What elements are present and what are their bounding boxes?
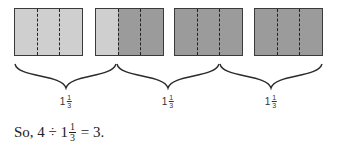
conclusion-prefix: So, 4 ÷ 1 [14, 124, 68, 141]
fraction: 1 3 [168, 94, 174, 109]
numerator: 1 [271, 94, 277, 102]
grouping-braces [0, 0, 337, 100]
conclusion-statement: So, 4 ÷ 1 1 3 = 3. [14, 122, 104, 143]
fraction: 1 3 [66, 94, 72, 109]
group-label-3: 1 1 3 [265, 94, 277, 109]
denominator: 3 [67, 102, 71, 109]
conclusion-suffix: = 3. [77, 124, 104, 141]
whole-number: 1 [265, 96, 271, 107]
denominator: 3 [169, 102, 173, 109]
brace-1 [15, 64, 116, 88]
group-label-1: 1 1 3 [60, 94, 72, 109]
brace-2 [117, 64, 219, 88]
group-label-2: 1 1 3 [162, 94, 174, 109]
numerator: 1 [66, 94, 72, 102]
denominator: 3 [70, 133, 75, 143]
brace-3 [220, 64, 322, 88]
denominator: 3 [272, 102, 276, 109]
numerator: 1 [168, 94, 174, 102]
whole-number: 1 [162, 96, 168, 107]
whole-number: 1 [60, 96, 66, 107]
fraction: 1 3 [271, 94, 277, 109]
fraction: 1 3 [69, 122, 76, 143]
